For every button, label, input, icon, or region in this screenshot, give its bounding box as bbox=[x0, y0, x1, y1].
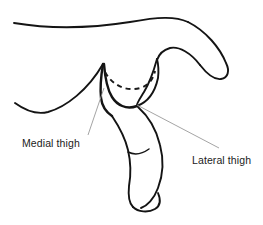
lateral-thigh-label: Lateral thigh bbox=[192, 154, 251, 166]
anatomical-figure-panel: Medial thigh Lateral thigh bbox=[0, 0, 263, 225]
anatomical-line-drawing: Medial thigh Lateral thigh bbox=[0, 0, 263, 225]
medial-thigh-label: Medial thigh bbox=[22, 137, 80, 149]
